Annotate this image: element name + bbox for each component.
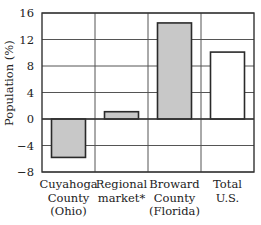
x-category-label-line: Cuyahoga [40, 178, 98, 192]
x-category-label-line: Regional [93, 178, 151, 192]
population-change-bar-chart: Population (%) 1612840−4−8 CuyahogaCount… [0, 0, 261, 225]
x-category-label-line: (Florida) [146, 205, 204, 219]
bar [105, 112, 139, 119]
x-category-label-line: market* [93, 192, 151, 206]
y-tick-label: 4 [8, 87, 34, 99]
x-category-label-line: U.S. [199, 192, 257, 206]
y-tick-label: 8 [8, 60, 34, 72]
bar [158, 23, 192, 119]
y-tick-label: 16 [8, 7, 34, 19]
x-category-label-line: Broward [146, 178, 204, 192]
bar [211, 52, 245, 119]
y-tick-label: −4 [8, 140, 34, 152]
x-category-label-line: Total [199, 178, 257, 192]
x-category-label: Regionalmarket* [93, 178, 151, 205]
y-tick-label: 0 [8, 113, 34, 125]
y-tick-label: −8 [8, 166, 34, 178]
x-category-label: CuyahogaCounty(Ohio) [40, 178, 98, 219]
x-category-label-line: (Ohio) [40, 205, 98, 219]
x-category-label: BrowardCounty(Florida) [146, 178, 204, 219]
x-category-label-line: County [146, 192, 204, 206]
x-category-label: TotalU.S. [199, 178, 257, 205]
y-tick-label: 12 [8, 34, 34, 46]
x-category-label-line: County [40, 192, 98, 206]
bar [52, 119, 86, 157]
